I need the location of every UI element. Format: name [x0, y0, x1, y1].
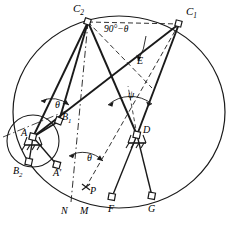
- geometry-figure: C2 C1 90°−θ E ψ θ B1 A D B2 A′ θ P N M F…: [0, 0, 239, 229]
- label-b1: B1: [62, 112, 72, 125]
- point-p-marker: [82, 184, 90, 190]
- label-g: G: [148, 204, 155, 214]
- label-c2: C2: [73, 3, 84, 17]
- label-angle-90-minus-theta: 90°−θ: [104, 25, 128, 35]
- joint-b2: [25, 158, 33, 166]
- label-e: E: [137, 56, 143, 66]
- joint-g: [148, 192, 156, 200]
- dashed-c2-c1: [88, 22, 179, 24]
- label-n: N: [61, 206, 68, 216]
- label-psi: ψ: [128, 90, 134, 100]
- label-f: F: [108, 204, 114, 214]
- label-p: P: [90, 186, 96, 196]
- link-a-aprime: [33, 137, 57, 165]
- joint-markers: [25, 18, 182, 201]
- label-b2: B2: [13, 166, 23, 179]
- arc-theta-lower: [69, 152, 103, 161]
- label-theta-upper: θ: [55, 100, 60, 110]
- label-c1: C1: [186, 6, 197, 20]
- joint-d: [133, 131, 141, 139]
- label-theta-lower: θ: [87, 153, 92, 163]
- joint-a: [29, 133, 37, 141]
- label-a: A: [21, 128, 27, 138]
- joint-f: [108, 193, 116, 201]
- label-a-prime: A′: [53, 168, 61, 178]
- link-d-g: [137, 135, 152, 196]
- link-c2-d: [88, 22, 137, 135]
- label-d: D: [143, 125, 150, 135]
- label-m: M: [80, 206, 88, 216]
- joint-c1: [175, 20, 182, 27]
- joint-c2: [84, 18, 92, 26]
